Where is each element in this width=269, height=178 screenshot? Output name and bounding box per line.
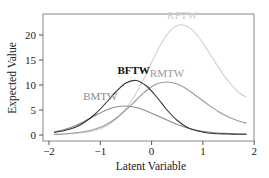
series-labels: BFTWBMTWRMTWRFTW	[83, 9, 198, 103]
chart: −2−1012 05101520 BFTWBMTWRMTWRFTW Latent…	[0, 0, 269, 178]
plot-frame	[43, 14, 254, 141]
series-label-bmtw: BMTW	[83, 90, 118, 102]
series-label-rmtw: RMTW	[150, 67, 185, 79]
series-line-bftw	[54, 80, 246, 134]
series-line-rftw	[54, 25, 246, 135]
y-axis: 05101520	[25, 29, 43, 141]
x-axis: −2−1012	[43, 141, 257, 157]
x-tick-label: −2	[43, 145, 55, 157]
y-tick-label: 5	[31, 104, 37, 116]
y-tick-label: 15	[25, 54, 37, 66]
x-tick-label: 0	[149, 145, 155, 157]
y-axis-title: Expected Value	[6, 42, 19, 114]
y-tick-label: 20	[25, 29, 37, 41]
series-lines	[54, 25, 246, 135]
x-axis-title: Latent Variable	[116, 160, 186, 172]
y-tick-label: 0	[31, 129, 37, 141]
x-tick-label: −1	[94, 145, 106, 157]
series-label-rftw: RFTW	[167, 9, 198, 21]
series-label-bftw: BFTW	[117, 64, 149, 76]
x-tick-label: 2	[251, 145, 257, 157]
x-tick-label: 1	[200, 145, 206, 157]
series-line-bmtw	[54, 106, 246, 134]
y-tick-label: 10	[25, 79, 37, 91]
